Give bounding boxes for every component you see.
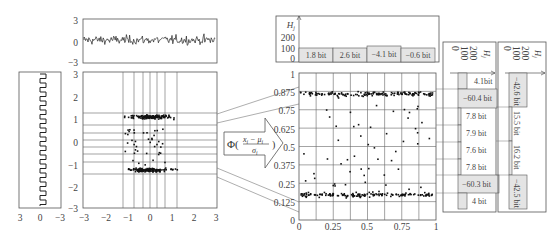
- tick: 100: [281, 44, 296, 54]
- top-ytick-0: 0: [73, 38, 78, 48]
- ytick: 0: [290, 216, 295, 226]
- noise-line: [84, 34, 215, 46]
- cdf-scatter-panel: 0 0.125 0.25 0.375 0.5 0.625 0.75 0.875 …: [274, 70, 439, 231]
- raw-scatter-points: [124, 114, 178, 173]
- bin-label: −4.1 bit: [372, 50, 398, 59]
- bin-label: 16.2 bit: [512, 145, 521, 170]
- bin-label: 7.8 bit: [466, 163, 487, 172]
- ytick: 0.375: [274, 161, 296, 171]
- xtick: −2: [101, 213, 111, 223]
- top-ytick-3: 3: [73, 16, 78, 26]
- tick: 0: [502, 46, 512, 51]
- xtick: 0.5: [361, 222, 373, 231]
- top-entropy-histogram: Hj 200 100 0 1.8 bit 2.6 bit −4.1 bit −0…: [276, 16, 439, 64]
- top-hist-axis-label: Hj: [286, 20, 296, 31]
- ytick: 0.125: [274, 198, 296, 208]
- left-xtick-0: 0: [38, 213, 43, 223]
- bin-label: 1.8 bit: [306, 51, 327, 60]
- left-square-wave-panel: 3 0 −3: [18, 72, 66, 223]
- bin-label: −60.4 bit: [463, 94, 493, 103]
- xtick: 2: [192, 213, 197, 223]
- bin-label: 7.8 bit: [466, 112, 487, 121]
- left-xtick-3: 3: [18, 213, 23, 223]
- tick: 0: [290, 54, 295, 64]
- xtick: 3: [214, 213, 219, 223]
- bin-label: 4.1bit: [474, 77, 493, 86]
- xtick: 0: [148, 213, 153, 223]
- ytick: 0.5: [283, 143, 295, 153]
- xtick: 1: [434, 222, 439, 231]
- ytick: 0.75: [278, 106, 295, 116]
- ytick: 1: [290, 70, 295, 80]
- tick: 200: [281, 33, 296, 43]
- bin-label: −42.6 bit: [512, 77, 521, 107]
- bin-label: 4 bit: [472, 197, 487, 206]
- right-entropy-histogram-4: Hj 200 100 0 −42.6 bit 15.5 bit 16.2 bit…: [498, 42, 546, 212]
- bin-label: −0.6 bit: [406, 51, 432, 60]
- axis-label: Hj: [532, 49, 543, 58]
- ytick: 0.875: [274, 88, 296, 98]
- phi-symbol: Φ(: [227, 138, 239, 151]
- figure: 3 0 −3 3 0 −3 3 2 1 0 −1 −2 −3 −3 −2 −1 …: [0, 0, 557, 231]
- xtick: −3: [79, 213, 89, 223]
- raw-scatter-gridlines: [83, 72, 217, 208]
- bin-label: 15.5 bit: [512, 111, 521, 136]
- square-wave-line: [40, 74, 46, 206]
- top-ytick-neg3: −3: [68, 58, 78, 68]
- bin-label: −60.3 bit: [462, 180, 492, 189]
- ytick: 3: [73, 70, 78, 80]
- xtick: 0: [297, 222, 302, 231]
- ytick: 2: [73, 93, 78, 103]
- xtick: 1: [170, 213, 175, 223]
- bin-label: 7.9 bit: [466, 129, 487, 138]
- tick: 0: [450, 46, 460, 51]
- ytick: −1: [68, 161, 78, 171]
- ytick: −2: [68, 183, 78, 193]
- phi-numerator: xi − μi: [242, 135, 264, 145]
- ytick: 1: [73, 115, 78, 125]
- ytick: −3: [68, 204, 78, 214]
- phi-close: ): [272, 139, 275, 151]
- ytick: 0.25: [278, 180, 295, 190]
- xtick: −1: [123, 213, 133, 223]
- bin-label: 7.6 bit: [466, 146, 487, 155]
- ytick: 0: [73, 138, 78, 148]
- xtick: 0.25: [325, 222, 342, 231]
- axis-label: Hj: [481, 49, 492, 58]
- left-xtick-neg3: −3: [55, 213, 65, 223]
- cdf-scatter-points: [300, 91, 434, 199]
- bin-label: −42.5 bit: [512, 179, 521, 209]
- xtick: 0.75: [394, 222, 411, 231]
- ytick: 0.625: [274, 125, 296, 135]
- bin-label: 2.6 bit: [340, 51, 361, 60]
- noise-time-series-panel: 3 0 −3: [68, 16, 217, 68]
- right-entropy-histogram-8: Hj 200 100 0 4.1bit −60.4 bit 7.8 bit 7.…: [443, 42, 499, 212]
- raw-scatter-panel: 3 2 1 0 −1 −2 −3 −3 −2 −1 0 1 2 3: [68, 70, 219, 223]
